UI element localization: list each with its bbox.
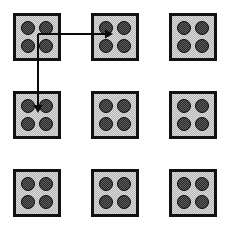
- four-dot-circle: [195, 21, 209, 35]
- four-dot-circle: [99, 177, 113, 191]
- four-dot-circle: [21, 117, 35, 131]
- four-dot-circle: [117, 39, 131, 53]
- tile-r2c1[interactable]: [13, 91, 61, 139]
- four-dot-circle: [99, 117, 113, 131]
- four-dot-circle: [195, 177, 209, 191]
- four-dot-circle: [39, 117, 53, 131]
- four-dot-circle: [195, 39, 209, 53]
- four-dot-circle: [195, 117, 209, 131]
- tile-r2c2[interactable]: [91, 91, 139, 139]
- four-dot-circle: [39, 177, 53, 191]
- tile-r2c3[interactable]: [169, 91, 217, 139]
- four-dot-circle: [21, 177, 35, 191]
- four-dot-circle: [117, 21, 131, 35]
- four-dot-circle: [99, 21, 113, 35]
- tile-r3c3[interactable]: [169, 169, 217, 217]
- four-dot-circle: [117, 195, 131, 209]
- four-dot-circle: [21, 39, 35, 53]
- tile-grid: [0, 0, 228, 228]
- tile-r3c1[interactable]: [13, 169, 61, 217]
- tile-r3c2[interactable]: [91, 169, 139, 217]
- four-dot-circle: [177, 117, 191, 131]
- four-dot-circle: [177, 177, 191, 191]
- four-dot-circle: [117, 177, 131, 191]
- four-dot-circle: [21, 21, 35, 35]
- four-dot-circle: [99, 39, 113, 53]
- four-dot-circle: [21, 99, 35, 113]
- four-dot-circle: [195, 195, 209, 209]
- four-dot-circle: [177, 39, 191, 53]
- four-dot-circle: [195, 99, 209, 113]
- four-dot-circle: [99, 195, 113, 209]
- four-dot-circle: [39, 39, 53, 53]
- tile-r1c2[interactable]: [91, 13, 139, 61]
- four-dot-circle: [177, 99, 191, 113]
- four-dot-circle: [117, 117, 131, 131]
- four-dot-circle: [39, 99, 53, 113]
- four-dot-circle: [21, 195, 35, 209]
- four-dot-circle: [177, 195, 191, 209]
- tile-r1c1[interactable]: [13, 13, 61, 61]
- four-dot-circle: [117, 99, 131, 113]
- four-dot-circle: [177, 21, 191, 35]
- diagram-canvas: [0, 0, 228, 228]
- four-dot-circle: [99, 99, 113, 113]
- four-dot-circle: [39, 195, 53, 209]
- tile-r1c3[interactable]: [169, 13, 217, 61]
- four-dot-circle: [39, 21, 53, 35]
